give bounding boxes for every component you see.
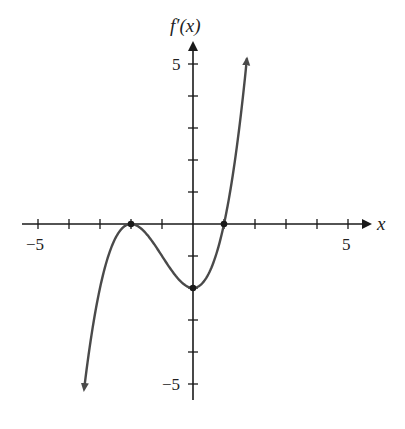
y-tick-label-max: 5 — [172, 55, 181, 74]
marked-point — [128, 221, 135, 228]
derivative-graph: f′(x) x −5 5 5 −5 — [0, 0, 405, 429]
x-tick-label-max: 5 — [342, 235, 351, 254]
x-axis-label: x — [376, 213, 386, 234]
y-axis-label: f′(x) — [170, 15, 201, 37]
y-tick-label-min: −5 — [162, 375, 180, 394]
x-tick-label-min: −5 — [26, 235, 44, 254]
marked-point — [221, 221, 228, 228]
marked-point — [190, 285, 197, 292]
